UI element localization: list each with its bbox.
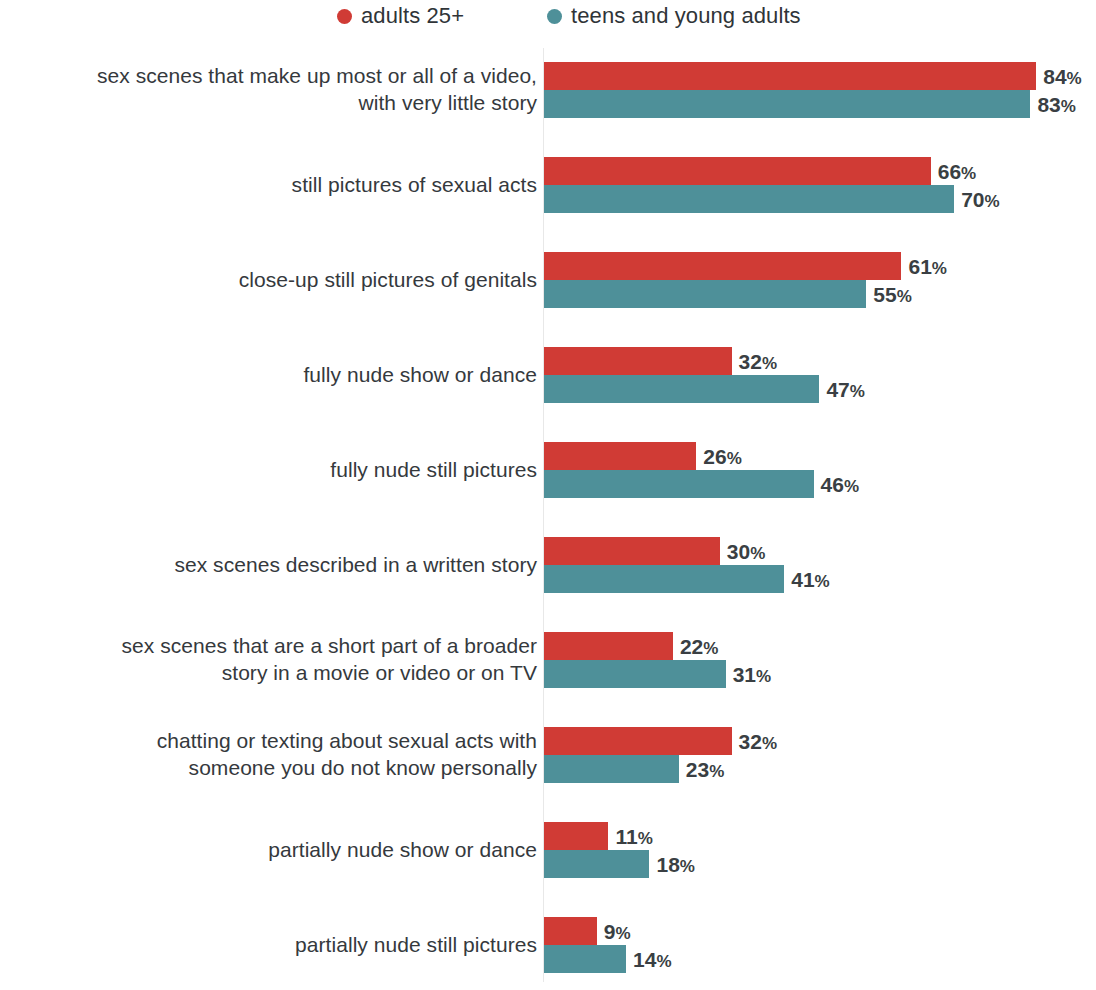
bar-row: 47% [544, 375, 865, 403]
bar-teens[interactable] [544, 945, 626, 973]
bar-row: 32% [544, 727, 777, 755]
plot-area: sex scenes that make up most or all of a… [0, 40, 1096, 990]
percent-sign: % [762, 354, 777, 373]
percent-sign: % [756, 667, 771, 686]
category-label: fully nude show or dance [0, 362, 537, 389]
bar-group: sex scenes that are a short part of a br… [0, 632, 1096, 688]
bar-value-label: 66% [938, 161, 976, 182]
bar-adults[interactable] [544, 62, 1036, 90]
bar-adults[interactable] [544, 157, 931, 185]
legend-item-teens[interactable]: teens and young adults [547, 5, 801, 27]
bar-adults[interactable] [544, 252, 901, 280]
bar-value-label: 32% [739, 351, 777, 372]
bar-teens[interactable] [544, 185, 954, 213]
bar-value-label: 55% [873, 284, 911, 305]
bar-group: still pictures of sexual acts66%70% [0, 157, 1096, 213]
bar-value-label: 41% [791, 569, 829, 590]
bar-adults[interactable] [544, 917, 597, 945]
bar-value-label: 84% [1043, 66, 1081, 87]
category-label: partially nude still pictures [0, 932, 537, 959]
bar-pair: 30%41% [544, 537, 1096, 593]
bar-row: 22% [544, 632, 718, 660]
legend-item-label: adults 25+ [361, 5, 464, 27]
percent-sign: % [656, 952, 671, 971]
bar-pair: 32%47% [544, 347, 1096, 403]
bar-adults[interactable] [544, 727, 732, 755]
bar-pair: 32%23% [544, 727, 1096, 783]
bar-teens[interactable] [544, 850, 649, 878]
percent-sign: % [703, 639, 718, 658]
percent-sign: % [850, 382, 865, 401]
bar-value-label: 26% [703, 446, 741, 467]
legend-item-label: teens and young adults [571, 5, 801, 27]
bar-row: 61% [544, 252, 947, 280]
bar-value-label: 23% [686, 759, 724, 780]
bar-group: close-up still pictures of genitals61%55… [0, 252, 1096, 308]
bar-teens[interactable] [544, 375, 819, 403]
bar-pair: 61%55% [544, 252, 1096, 308]
bar-adults[interactable] [544, 632, 673, 660]
percent-sign: % [762, 734, 777, 753]
bar-row: 55% [544, 280, 912, 308]
bar-value-label: 14% [633, 949, 671, 970]
bar-row: 26% [544, 442, 742, 470]
bar-row: 83% [544, 90, 1076, 118]
percent-sign: % [709, 762, 724, 781]
bar-row: 70% [544, 185, 1000, 213]
bar-value-label: 9% [604, 921, 631, 942]
category-label: sex scenes that are a short part of a br… [0, 633, 537, 687]
legend-circle-marker-icon [547, 9, 562, 24]
bar-pair: 9%14% [544, 917, 1096, 973]
bar-row: 41% [544, 565, 830, 593]
bar-adults[interactable] [544, 442, 696, 470]
category-label: partially nude show or dance [0, 837, 537, 864]
legend-item-adults[interactable]: adults 25+ [337, 5, 464, 27]
bar-row: 11% [544, 822, 653, 850]
percent-sign: % [727, 449, 742, 468]
bar-pair: 66%70% [544, 157, 1096, 213]
bar-row: 23% [544, 755, 724, 783]
bar-row: 84% [544, 62, 1082, 90]
percent-sign: % [615, 924, 630, 943]
category-label: chatting or texting about sexual acts wi… [0, 728, 537, 782]
bar-teens[interactable] [544, 755, 679, 783]
bar-row: 31% [544, 660, 771, 688]
bar-adults[interactable] [544, 822, 608, 850]
bar-row: 18% [544, 850, 695, 878]
bar-teens[interactable] [544, 660, 726, 688]
percent-sign: % [897, 287, 912, 306]
bar-pair: 26%46% [544, 442, 1096, 498]
bar-group: partially nude show or dance11%18% [0, 822, 1096, 878]
category-label: sex scenes that make up most or all of a… [0, 63, 537, 117]
percent-sign: % [844, 477, 859, 496]
bar-pair: 11%18% [544, 822, 1096, 878]
bar-value-label: 22% [680, 636, 718, 657]
bar-teens[interactable] [544, 565, 784, 593]
bar-teens[interactable] [544, 470, 814, 498]
bar-row: 32% [544, 347, 777, 375]
bar-group: fully nude still pictures26%46% [0, 442, 1096, 498]
category-label: still pictures of sexual acts [0, 172, 537, 199]
bar-adults[interactable] [544, 347, 732, 375]
bar-teens[interactable] [544, 90, 1030, 118]
bar-value-label: 70% [961, 189, 999, 210]
percent-sign: % [985, 192, 1000, 211]
percent-sign: % [1061, 97, 1076, 116]
percent-sign: % [680, 857, 695, 876]
bar-teens[interactable] [544, 280, 866, 308]
percent-sign: % [1067, 69, 1082, 88]
percent-sign: % [932, 259, 947, 278]
bar-adults[interactable] [544, 537, 720, 565]
bar-row: 66% [544, 157, 976, 185]
category-label: sex scenes described in a written story [0, 552, 537, 579]
percent-sign: % [961, 164, 976, 183]
legend-circle-marker-icon [337, 9, 352, 24]
bar-chart: adults 25+ teens and young adults sex sc… [0, 0, 1096, 990]
bar-group: partially nude still pictures9%14% [0, 917, 1096, 973]
bar-value-label: 32% [739, 731, 777, 752]
bar-pair: 84%83% [544, 62, 1096, 118]
bar-row: 9% [544, 917, 631, 945]
bar-value-label: 31% [733, 664, 771, 685]
percent-sign: % [750, 544, 765, 563]
bar-group: sex scenes that make up most or all of a… [0, 62, 1096, 118]
